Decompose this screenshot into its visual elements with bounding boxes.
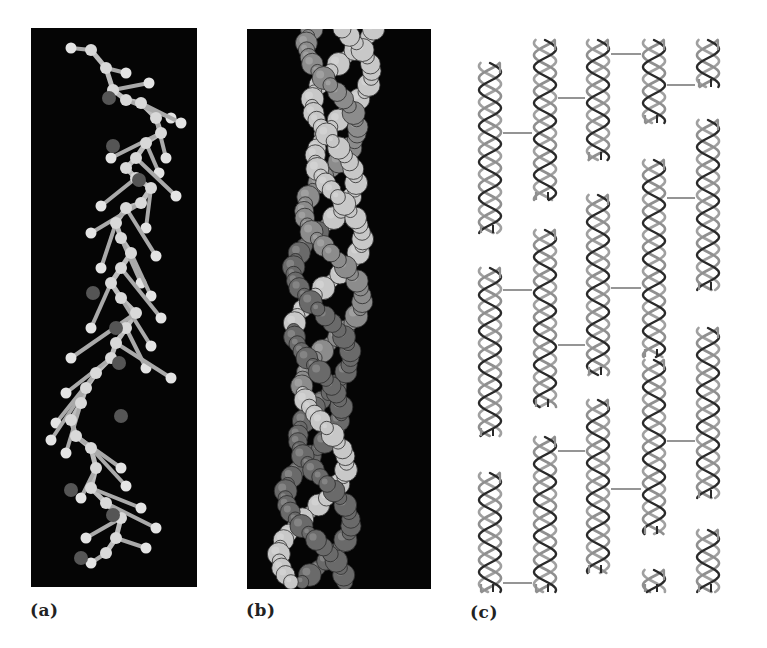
staggered-triple-helix-array-graphic xyxy=(460,30,740,600)
triple-helix-molecule xyxy=(697,40,719,87)
panel-b-space-filling-model xyxy=(247,29,431,589)
triple-helix-molecule xyxy=(479,268,501,436)
panel-a-label: (a) xyxy=(30,600,59,620)
panel-a-ball-and-stick-model xyxy=(31,28,197,587)
triple-helix-molecule xyxy=(697,530,719,592)
triple-helix-molecule xyxy=(697,120,719,290)
triple-helix-molecule xyxy=(587,400,609,573)
triple-helix-molecule xyxy=(643,570,665,592)
triple-helix-molecule xyxy=(587,40,609,160)
triple-helix-molecule xyxy=(697,328,719,498)
triple-helix-molecule xyxy=(643,160,665,357)
triple-helix-molecule xyxy=(643,40,665,123)
triple-helix-molecule xyxy=(479,63,501,233)
triple-helix-molecule xyxy=(534,230,556,407)
triple-helix-molecule xyxy=(534,437,556,592)
triple-helix-molecule xyxy=(479,473,501,592)
triple-helix-molecule xyxy=(587,195,609,375)
panel-c-label: (c) xyxy=(470,602,498,622)
triple-helix-molecule xyxy=(534,40,556,200)
panel-c-fibril-diagram xyxy=(460,30,740,600)
space-filling-triple-helix-graphic xyxy=(247,29,431,589)
ball-and-stick-chain-graphic xyxy=(31,28,197,587)
panel-b-label: (b) xyxy=(246,600,275,620)
triple-helix-molecule xyxy=(643,360,665,534)
